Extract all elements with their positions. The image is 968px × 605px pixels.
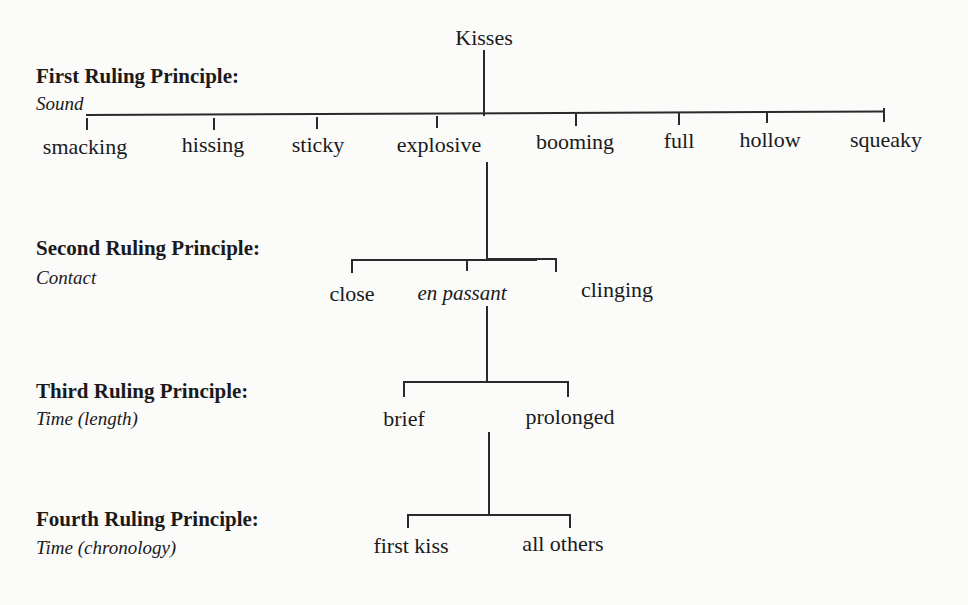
node-hollow: hollow <box>739 129 800 151</box>
node-smacking: smacking <box>43 136 127 158</box>
tick-en-passant <box>466 259 468 271</box>
connector-prolonged <box>488 432 490 516</box>
node-first-kiss: first kiss <box>373 535 448 557</box>
tick-hollow <box>766 111 768 123</box>
connector-contact-bar-right2 <box>486 258 556 260</box>
node-close: close <box>329 283 374 305</box>
node-squeaky: squeaky <box>850 129 922 151</box>
tick-booming <box>575 114 577 126</box>
node-en-passant: en passant <box>417 283 506 304</box>
principle-1-title: First Ruling Principle: <box>36 66 239 87</box>
connector-root <box>483 50 485 116</box>
node-booming: booming <box>536 131 614 153</box>
principle-4-criterion: Time (chronology) <box>36 538 176 557</box>
node-brief: brief <box>383 408 425 430</box>
node-sticky: sticky <box>292 134 345 156</box>
tick-close <box>351 259 353 273</box>
tick-squeaky <box>883 108 885 122</box>
node-prolonged: prolonged <box>525 406 614 428</box>
connector-chronology-bar <box>407 514 571 516</box>
principle-3-criterion: Time (length) <box>36 409 138 428</box>
tick-first-kiss <box>407 514 409 528</box>
tick-clinging <box>555 258 557 272</box>
connector-length-bar <box>403 381 569 383</box>
tick-full <box>678 113 680 125</box>
principle-2-criterion: Contact <box>36 268 96 287</box>
tick-smacking <box>86 118 88 130</box>
tree-root-kisses: Kisses <box>455 27 512 49</box>
connector-explosive <box>486 162 488 260</box>
node-explosive: explosive <box>397 134 481 156</box>
connector-contact-bar <box>351 259 458 261</box>
tick-brief <box>403 381 405 397</box>
tick-explosive <box>436 116 438 128</box>
node-all-others: all others <box>522 533 603 555</box>
principle-1-criterion: Sound <box>36 94 84 113</box>
principle-4-title: Fourth Ruling Principle: <box>36 509 259 530</box>
tick-sticky <box>316 117 318 129</box>
node-hissing: hissing <box>182 134 244 156</box>
connector-en-passant <box>486 306 488 382</box>
principle-3-title: Third Ruling Principle: <box>36 381 248 402</box>
node-full: full <box>664 130 695 152</box>
tick-all-others <box>569 514 571 528</box>
node-clinging: clinging <box>581 279 653 301</box>
tick-hissing <box>213 118 215 130</box>
principle-2-title: Second Ruling Principle: <box>36 238 260 259</box>
tick-prolonged <box>567 381 569 397</box>
